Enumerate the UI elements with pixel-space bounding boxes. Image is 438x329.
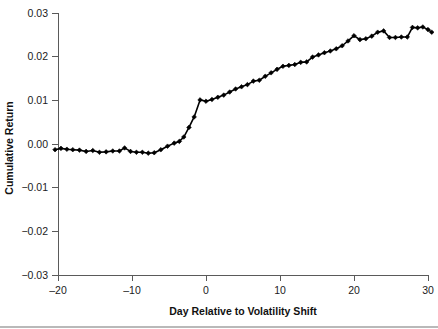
data-point-marker — [415, 26, 420, 31]
data-point-marker — [198, 98, 203, 103]
data-point-marker — [146, 151, 151, 156]
data-point-marker — [77, 148, 82, 153]
data-point-marker — [65, 147, 70, 152]
y-tick-label: 0.01 — [28, 94, 49, 106]
data-point-marker — [134, 150, 139, 155]
series-polyline — [55, 27, 432, 153]
data-point-marker — [287, 63, 292, 68]
y-tick-label: −0.01 — [21, 181, 48, 193]
data-point-marker — [53, 147, 58, 152]
data-point-marker — [298, 60, 303, 65]
data-point-marker — [316, 53, 321, 58]
data-point-marker — [322, 50, 327, 55]
x-axis: –20–100102030 — [49, 275, 434, 296]
data-point-marker — [110, 149, 115, 154]
data-point-marker — [364, 36, 369, 41]
data-point-marker — [399, 35, 404, 40]
data-point-marker — [97, 150, 102, 155]
data-point-marker — [293, 62, 298, 67]
data-point-marker — [239, 84, 244, 89]
data-series-cumulative-return — [53, 25, 434, 156]
y-axis: −0.03−0.02−0.010.000.010.020.03 — [21, 7, 58, 281]
x-tick-label: 0 — [203, 284, 209, 296]
x-tick-label: 30 — [422, 284, 434, 296]
data-point-marker — [59, 146, 64, 151]
data-point-marker — [216, 95, 221, 100]
data-point-marker — [84, 149, 89, 154]
data-point-marker — [104, 150, 109, 155]
cumulative-return-line-chart: −0.03−0.02−0.010.000.010.020.03 –20–1001… — [0, 0, 438, 329]
y-tick-label: 0.02 — [28, 50, 49, 62]
data-point-marker — [328, 49, 333, 54]
y-tick-label: −0.03 — [21, 269, 48, 281]
data-point-marker — [90, 148, 95, 153]
data-point-marker — [210, 97, 215, 102]
data-point-marker — [393, 35, 398, 40]
data-point-marker — [140, 150, 145, 155]
data-point-marker — [204, 99, 209, 104]
y-axis-title: Cumulative Return — [3, 101, 15, 194]
y-tick-label: 0.03 — [28, 7, 49, 19]
footer-divider — [0, 326, 438, 328]
x-tick-label: 10 — [274, 284, 286, 296]
x-tick-label: –20 — [49, 284, 67, 296]
chart-figure: −0.03−0.02−0.010.000.010.020.03 –20–1001… — [0, 0, 438, 329]
x-axis-title: Day Relative to Volatility Shift — [169, 305, 317, 317]
y-tick-label: 0.00 — [28, 138, 49, 150]
data-point-marker — [71, 147, 76, 152]
x-tick-label: 20 — [348, 284, 360, 296]
y-tick-label: −0.02 — [21, 225, 48, 237]
x-tick-label: –10 — [123, 284, 141, 296]
